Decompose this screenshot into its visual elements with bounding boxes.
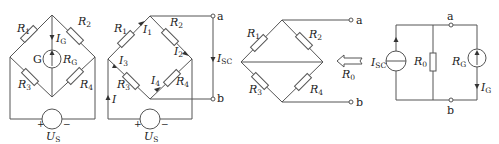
svg-text:I2: I2: [173, 45, 183, 59]
resistor-r2: [67, 28, 84, 45]
circuit-diagrams: R1 R2 R3 R4 IG G RG + − US: [0, 0, 499, 144]
svg-text:R2: R2: [77, 15, 91, 29]
current-arrow-isc: [211, 57, 216, 62]
svg-text:R1: R1: [16, 22, 30, 36]
resistor-r0: [430, 53, 436, 71]
svg-text:I4: I4: [150, 74, 160, 88]
circuit-figure: R1 R2 R3 R4 IG G RG + − US: [0, 0, 499, 144]
terminal-a: [449, 23, 453, 27]
resistor-r2: [162, 29, 179, 46]
svg-text:R1: R1: [113, 22, 127, 36]
svg-text:ISC: ISC: [216, 52, 232, 66]
terminal-b: [211, 97, 215, 101]
current-arrow-ig: [475, 84, 480, 89]
svg-text:RG: RG: [62, 53, 77, 67]
svg-text:a: a: [356, 14, 363, 27]
svg-text:R4: R4: [309, 83, 323, 97]
svg-text:R4: R4: [79, 78, 93, 92]
terminal-a: [349, 18, 353, 22]
svg-text:−: −: [63, 119, 71, 129]
svg-text:US: US: [46, 130, 60, 144]
svg-text:I: I: [111, 93, 117, 106]
svg-text:+: +: [37, 119, 45, 129]
svg-text:b: b: [356, 96, 363, 109]
voltage-source-icon: [42, 109, 62, 129]
panel-bridge-equivalent-resistance: R1 R2 R3 R4 a b R0: [241, 14, 363, 109]
svg-text:I3: I3: [118, 54, 128, 68]
terminal-a: [211, 14, 215, 18]
svg-text:R2: R2: [308, 28, 322, 42]
svg-text:R0: R0: [341, 68, 355, 82]
current-arrow-ig: [50, 35, 55, 40]
svg-text:IG: IG: [55, 32, 66, 46]
terminal-b: [349, 100, 353, 104]
svg-text:ISC: ISC: [370, 56, 386, 70]
svg-text:IG: IG: [480, 81, 491, 95]
svg-text:R4: R4: [175, 75, 189, 89]
svg-text:G: G: [33, 53, 42, 66]
panel-bridge-short-circuit: R1 I1 R2 I2 I3 R3 I4 R4 I ISC a b + − US: [106, 10, 233, 144]
svg-text:a: a: [217, 10, 224, 23]
svg-text:R0: R0: [413, 55, 427, 69]
svg-text:b: b: [217, 92, 224, 105]
svg-text:a: a: [447, 10, 454, 23]
svg-text:R2: R2: [169, 16, 183, 30]
svg-text:R1: R1: [246, 27, 260, 41]
svg-text:RG: RG: [451, 55, 466, 69]
terminal-b: [449, 98, 453, 102]
svg-text:+: +: [134, 119, 142, 129]
svg-text:−: −: [161, 119, 169, 129]
svg-text:b: b: [447, 104, 454, 117]
svg-text:I1: I1: [142, 23, 152, 37]
resistor-r4: [295, 74, 312, 91]
panel-bridge-galvanometer: R1 R2 R3 R4 IG G RG + − US: [10, 15, 95, 144]
equivalent-arrow-icon: [337, 55, 362, 67]
svg-text:US: US: [144, 130, 158, 144]
panel-norton-equivalent: ISC R0 RG IG a b: [370, 10, 491, 117]
voltage-source-icon: [140, 109, 160, 129]
